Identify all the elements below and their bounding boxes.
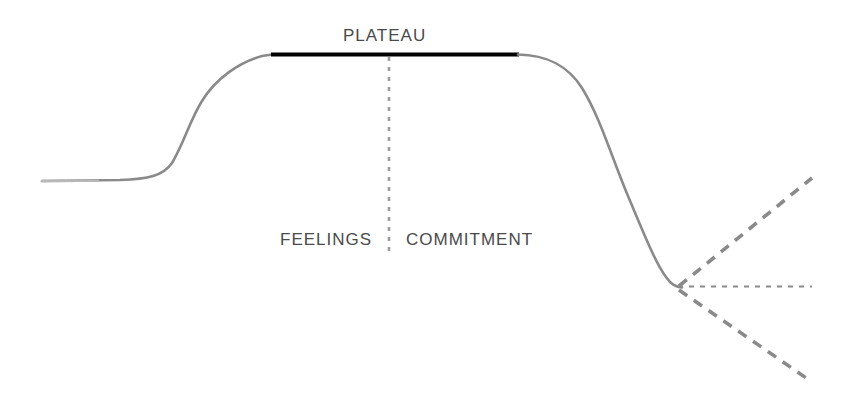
declining-curve — [518, 55, 682, 288]
plateau-label: PLATEAU — [343, 27, 426, 44]
relationship-curve-diagram: PLATEAU FEELINGS COMMITMENT — [0, 0, 846, 410]
commitment-label: COMMITMENT — [406, 231, 533, 248]
branch-rising-dashed — [679, 178, 812, 286]
branch-falling-dashed — [679, 290, 812, 382]
curve-canvas — [0, 0, 846, 410]
feelings-label: FEELINGS — [280, 231, 372, 248]
rising-curve — [42, 55, 272, 182]
